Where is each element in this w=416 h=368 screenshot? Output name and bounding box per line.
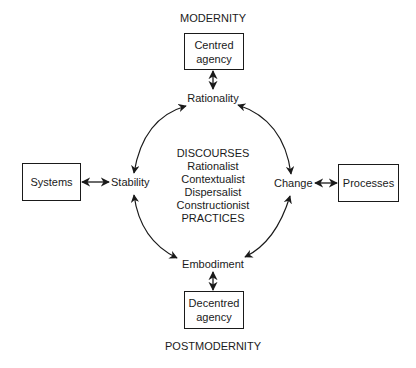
discourse-item: Rationalist <box>143 160 283 173</box>
postmodernity-title: POSTMODERNITY <box>148 340 278 353</box>
node-embodiment: Embodiment <box>168 258 258 271</box>
discourse-item: Dispersalist <box>143 186 283 199</box>
centred-agency-box: Centred agency <box>184 33 244 70</box>
discourse-item: Contextualist <box>143 173 283 186</box>
processes-box: Processes <box>338 164 399 202</box>
center-discourses-block: DISCOURSES Rationalist Contextualist Dis… <box>143 147 283 225</box>
decentred-agency-box: Decentred agency <box>184 291 244 329</box>
discourses-heading: DISCOURSES <box>143 147 283 160</box>
modernity-title: MODERNITY <box>163 12 263 25</box>
centred-agency-line-2: agency <box>196 52 231 66</box>
decentred-agency-line-1: Decentred <box>189 296 240 310</box>
diagram: MODERNITY Centred agency Rationality Sys… <box>0 0 416 368</box>
node-rationality: Rationality <box>173 92 253 105</box>
decentred-agency-line-2: agency <box>196 310 231 324</box>
systems-box: Systems <box>22 163 81 201</box>
discourse-item: Constructionist <box>143 199 283 212</box>
processes-label: Processes <box>343 176 394 190</box>
centred-agency-line-1: Centred <box>194 38 233 52</box>
practices-footer: PRACTICES <box>143 212 283 225</box>
systems-label: Systems <box>30 175 72 189</box>
